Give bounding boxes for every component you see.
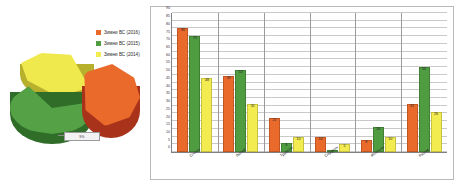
- bar[interactable]: 55: [419, 13, 430, 152]
- pie-callout-label: 9%: [64, 132, 100, 141]
- pie-legend-item[interactable]: Зимни ВС (2016): [96, 27, 140, 38]
- bar-group: 315526Разом: [401, 13, 447, 152]
- bar-group: 22610Травень: [264, 13, 310, 152]
- pie-legend-swatch: [96, 30, 101, 35]
- bar-chart-panel: 0510152025303540455055606570758085908075…: [150, 6, 454, 180]
- bar[interactable]: 10: [315, 13, 326, 152]
- bar-group: 807548Січень: [172, 13, 218, 152]
- pie-callout-text: 9%: [79, 135, 84, 139]
- bar-fill: [223, 76, 234, 152]
- y-axis-tick-label: 35: [166, 93, 170, 97]
- y-axis-tick-label: 60: [166, 54, 170, 58]
- bar-fill: [269, 118, 280, 152]
- bar[interactable]: 1: [327, 13, 338, 152]
- bar-group: 81610Жовтень: [355, 13, 401, 152]
- bar[interactable]: 75: [189, 13, 200, 152]
- y-axis-tick-label: 90: [166, 8, 170, 12]
- bar[interactable]: 31: [247, 13, 258, 152]
- chart-screenshot: 9% Зимни ВС (2016)Зимни ВС (2015)Зимни В…: [0, 0, 459, 184]
- bar-fill: [247, 104, 258, 152]
- bar-value-label: 53: [239, 71, 243, 75]
- bar-value-label: 8: [365, 141, 367, 145]
- bar-value-label: 10: [318, 138, 322, 142]
- pie-chart-3d: 9%: [8, 52, 140, 170]
- bar-value-label: 31: [251, 105, 255, 109]
- bar[interactable]: 31: [407, 13, 418, 152]
- bar[interactable]: 16: [373, 13, 384, 152]
- bar-value-label: 26: [434, 113, 438, 117]
- bar[interactable]: 80: [177, 13, 188, 152]
- pie-legend-item[interactable]: Зимни ВС (2015): [96, 38, 140, 49]
- bar[interactable]: 5: [339, 13, 350, 152]
- bar[interactable]: 22: [269, 13, 280, 152]
- y-axis-tick-label: 70: [166, 39, 170, 43]
- y-axis-tick-label: 80: [166, 23, 170, 27]
- bar-value-label: 49: [227, 77, 231, 81]
- bar-value-label: 55: [422, 68, 426, 72]
- bar[interactable]: 49: [223, 13, 234, 152]
- y-axis-tick-label: 85: [166, 15, 170, 19]
- bar-value-label: 22: [273, 119, 277, 123]
- bar-value-label: 16: [376, 128, 380, 132]
- bar-fill: [431, 112, 442, 152]
- bar[interactable]: 10: [293, 13, 304, 152]
- y-axis-tick-label: 30: [166, 100, 170, 104]
- pie-legend-item[interactable]: Зимни ВС (2014): [96, 49, 140, 60]
- pie-legend-label: Зимни ВС (2015): [104, 41, 140, 46]
- y-axis-tick-label: 40: [166, 85, 170, 89]
- bar-fill: [189, 36, 200, 152]
- bar-value-label: 10: [388, 138, 392, 142]
- y-axis-tick-label: 0: [168, 147, 170, 151]
- pie-chart-panel: 9% Зимни ВС (2016)Зимни ВС (2015)Зимни В…: [0, 0, 150, 184]
- bar-value-label: 31: [410, 105, 414, 109]
- bar-value-label: 75: [193, 37, 197, 41]
- bar[interactable]: 53: [235, 13, 246, 152]
- y-axis-tick-label: 55: [166, 62, 170, 66]
- bar-value-label: 80: [181, 29, 185, 33]
- y-axis-tick-label: 10: [166, 131, 170, 135]
- pie-legend-label: Зимни ВС (2016): [104, 30, 140, 35]
- bar-chart-plot-area: 0510152025303540455055606570758085908075…: [171, 13, 447, 153]
- bar[interactable]: 26: [431, 13, 442, 152]
- bar-fill: [177, 28, 188, 152]
- y-axis-tick-label: 45: [166, 77, 170, 81]
- y-axis-tick-label: 50: [166, 69, 170, 73]
- bar-value-label: 5: [343, 145, 345, 149]
- y-axis-tick-label: 5: [168, 139, 170, 143]
- y-axis-tick-label: 20: [166, 116, 170, 120]
- pie-legend: Зимни ВС (2016)Зимни ВС (2015)Зимни ВС (…: [96, 27, 140, 60]
- bar-value-label: 10: [297, 138, 301, 142]
- bar-group: 1015Серпень: [310, 13, 356, 152]
- bar-value-label: 48: [205, 79, 209, 83]
- y-axis-tick-label: 25: [166, 108, 170, 112]
- pie-legend-label: Зимни ВС (2014): [104, 52, 140, 57]
- bar[interactable]: 8: [361, 13, 372, 152]
- y-axis-tick-label: 15: [166, 123, 170, 127]
- bar-fill: [201, 78, 212, 152]
- bar[interactable]: 10: [385, 13, 396, 152]
- y-axis-tick-label: 65: [166, 46, 170, 50]
- y-axis-tick-label: 75: [166, 31, 170, 35]
- bar-fill: [235, 70, 246, 152]
- pie-legend-swatch: [96, 52, 101, 57]
- bar-fill: [419, 67, 430, 152]
- bar-group: 495331Лютий: [218, 13, 264, 152]
- pie-legend-swatch: [96, 41, 101, 46]
- bar[interactable]: 48: [201, 13, 212, 152]
- bar-fill: [407, 104, 418, 152]
- bar[interactable]: 6: [281, 13, 292, 152]
